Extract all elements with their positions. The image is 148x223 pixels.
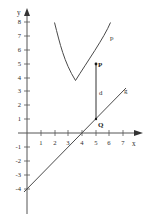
y-axis-arrow-icon — [24, 8, 30, 16]
y-tick-label-4: 4 — [18, 74, 22, 81]
parabola-label-p: p — [110, 34, 114, 42]
x-tick-label-7: 7 — [121, 139, 125, 146]
x-tick-label-4: 4 — [80, 139, 84, 146]
x-tick-label-1: 1 — [39, 139, 42, 146]
y-tick-label-5: 5 — [18, 60, 22, 67]
x-axis-arrow-icon — [134, 130, 143, 136]
y-tick-labels-negative: -1 -2 -3 -4 — [16, 143, 22, 192]
point-P-dot — [95, 63, 98, 66]
y-tick-label-neg4: -4 — [16, 185, 22, 192]
y-tick-label-3: 3 — [18, 87, 22, 94]
axes-group — [18, 8, 143, 214]
x-tick-labels: 1 2 3 4 5 6 7 — [39, 139, 125, 146]
y-tick-label-7: 7 — [18, 32, 22, 39]
parabola-p-path — [55, 23, 111, 81]
point-label-P: P — [98, 61, 103, 69]
y-tick-label-8: 8 — [18, 18, 22, 25]
y-tick-label-neg1: -1 — [16, 143, 22, 150]
y-tick-labels-positive: 8 7 6 5 4 3 2 1 — [18, 18, 22, 122]
y-tick-label-1: 1 — [18, 115, 21, 122]
y-tick-label-neg3: -3 — [16, 171, 22, 178]
y-axis-label: y — [17, 9, 21, 17]
x-tick-label-6: 6 — [107, 139, 111, 146]
x-axis-label: x — [132, 140, 136, 148]
y-tick-label-neg2: -2 — [16, 157, 22, 164]
graph-figure: 1 2 3 4 5 6 7 8 7 6 5 4 3 2 1 -1 -2 -3 -… — [0, 0, 148, 223]
distance-label-d: d — [99, 89, 103, 96]
point-Q-dot — [95, 118, 97, 120]
plot-canvas: 1 2 3 4 5 6 7 8 7 6 5 4 3 2 1 -1 -2 -3 -… — [0, 0, 148, 223]
x-tick-label-2: 2 — [53, 139, 56, 146]
y-tick-label-2: 2 — [18, 101, 21, 108]
line-label-g: g — [124, 87, 128, 95]
x-tick-label-5: 5 — [94, 139, 98, 146]
y-tick-label-6: 6 — [18, 46, 22, 53]
point-label-Q: Q — [98, 121, 104, 129]
